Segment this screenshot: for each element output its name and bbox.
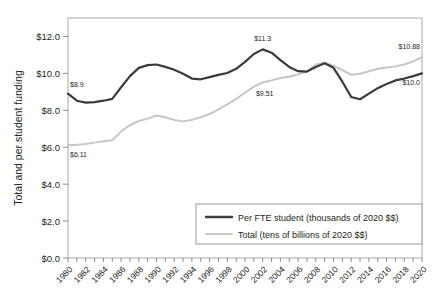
legend-label: Per FTE student (thousands of 2020 $$) (238, 213, 399, 223)
x-tick-label: 2004 (266, 264, 287, 285)
data-point-annotation: $6.11 (70, 151, 87, 158)
x-tick-label: 1986 (107, 264, 128, 285)
x-tick-label: 1990 (142, 264, 163, 285)
x-tick-label: 1992 (160, 264, 181, 285)
data-point-annotation: $11.3 (254, 35, 271, 42)
y-axis-ticks: $0.0$2.0$4.0$6.0$8.0$10.0$12.0 (36, 31, 68, 264)
chart-container: $0.0$2.0$4.0$6.0$8.0$10.0$12.0 198019821… (0, 0, 436, 300)
line-chart: $0.0$2.0$4.0$6.0$8.0$10.0$12.0 198019821… (0, 0, 436, 300)
x-tick-label: 1980 (54, 264, 75, 285)
y-tick-label: $10.0 (36, 68, 60, 79)
y-tick-label: $4.0 (42, 179, 61, 190)
x-tick-label: 2020 (408, 264, 429, 285)
x-tick-label: 1996 (196, 264, 217, 285)
x-tick-label: 2016 (373, 264, 394, 285)
x-axis-ticks: 1980198219841986198819901992199419961998… (54, 258, 429, 285)
x-tick-label: 1994 (178, 264, 199, 285)
x-tick-label: 2002 (249, 264, 270, 285)
data-annotations: $8.9$11.3$10.0$6.11$9.51$10.88 (70, 35, 420, 158)
x-tick-label: 1984 (89, 264, 110, 285)
x-tick-label: 2008 (302, 264, 323, 285)
y-tick-label: $0.0 (42, 253, 61, 264)
data-point-annotation: $8.9 (70, 81, 84, 88)
y-tick-label: $12.0 (36, 31, 60, 42)
x-tick-label: 1988 (125, 264, 146, 285)
x-tick-label: 2000 (231, 264, 252, 285)
x-tick-label: 1998 (213, 264, 234, 285)
x-tick-label: 2014 (355, 264, 376, 285)
y-axis-title: Total and per student funding (12, 70, 24, 206)
series-lines (68, 49, 422, 145)
data-point-annotation: $10.88 (399, 43, 421, 50)
legend-label: Total (tens of billions of 2020 $$) (238, 230, 368, 240)
x-tick-label: 2018 (390, 264, 411, 285)
x-tick-label: 2010 (319, 264, 340, 285)
data-point-annotation: $9.51 (256, 90, 274, 97)
series-line (68, 49, 422, 102)
series-line (68, 57, 422, 145)
y-tick-label: $2.0 (42, 216, 61, 227)
data-point-annotation: $10.0 (402, 79, 420, 86)
chart-legend: Per FTE student (thousands of 2020 $$)To… (196, 204, 422, 244)
x-tick-label: 1982 (72, 264, 93, 285)
y-tick-label: $8.0 (42, 105, 61, 116)
x-tick-label: 2006 (284, 264, 305, 285)
y-tick-label: $6.0 (42, 142, 61, 153)
x-tick-label: 2012 (337, 264, 358, 285)
